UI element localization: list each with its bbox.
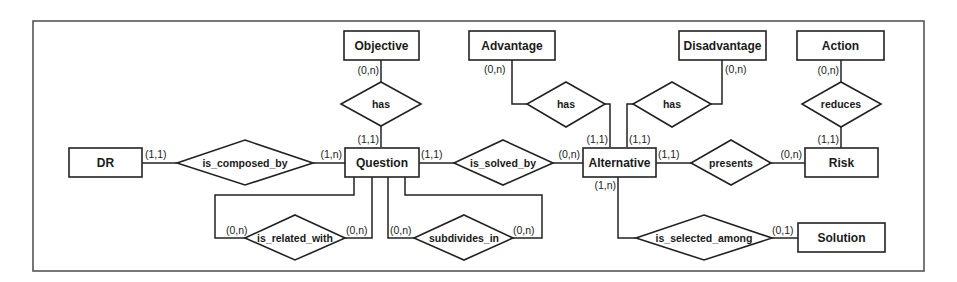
relationship-label: subdivides_in (429, 232, 499, 244)
entity-label: Advantage (481, 39, 543, 53)
cardinality-solution-selected: (0,1) (772, 224, 794, 236)
relationship-label: is_composed_by (202, 157, 287, 169)
cardinality-subdivides-left: (0,n) (390, 224, 412, 236)
entity-label: Action (822, 39, 859, 53)
entity-advantage: Advantage (469, 31, 555, 60)
cardinality-question-solved: (1,1) (421, 148, 443, 160)
relationship-reduces: reduces (802, 82, 881, 127)
entity-label: Disadvantage (683, 39, 761, 53)
cardinality-risk-action: (1,1) (817, 133, 839, 145)
relationship-objective-has: has (341, 82, 421, 126)
cardinality-alternative-disadvantage: (1,1) (629, 133, 651, 145)
entity-label: Objective (354, 39, 408, 53)
cardinality-question-dr: (1,n) (320, 148, 342, 160)
cardinality-alternative-selected: (1,n) (594, 179, 616, 191)
relationship-label: has (557, 98, 575, 110)
cardinality-dr: (1,1) (145, 148, 167, 160)
cardinality-risk-presents: (0,n) (780, 148, 802, 160)
entity-objective: Objective (344, 31, 419, 60)
entity-dr: DR (69, 148, 142, 177)
entity-label: Question (356, 156, 408, 170)
entity-label: DR (97, 156, 115, 170)
relationship-advantage-has: has (527, 82, 605, 127)
entity-label: Risk (829, 156, 855, 170)
relationship-presents: presents (691, 140, 771, 185)
relationship-label: has (663, 98, 681, 110)
relationship-label: reduces (821, 98, 861, 110)
er-diagram: Objective Advantage Disadvantage Action … (0, 0, 957, 282)
cardinality-disadvantage: (0,n) (725, 63, 747, 75)
cardinality-action: (0,n) (817, 64, 839, 76)
entity-risk: Risk (805, 148, 878, 177)
relationship-is-related-with: is_related_with (245, 215, 345, 260)
connector-disadvantage-has (711, 60, 722, 104)
connector-advantage-has (512, 60, 527, 104)
cardinality-objective: (0,n) (357, 64, 379, 76)
cardinality-advantage: (0,n) (484, 63, 506, 75)
entity-label: Solution (818, 231, 866, 245)
relationship-label: is_solved_by (470, 157, 536, 169)
relationship-label: is_selected_among (656, 232, 753, 244)
cardinality-alternative-solved: (0,n) (558, 148, 580, 160)
cardinality-subdivides-right: (0,n) (513, 224, 535, 236)
entity-alternative: Alternative (583, 148, 656, 177)
entity-action: Action (797, 31, 884, 60)
entity-label: Alternative (588, 156, 650, 170)
relationship-label: has (372, 98, 390, 110)
cardinality-alternative-presents: (1,1) (658, 148, 680, 160)
cardinality-related-right: (0,n) (346, 224, 368, 236)
relationship-label: is_related_with (257, 232, 333, 244)
entity-solution: Solution (798, 223, 885, 252)
cardinality-alternative-advantage: (1,1) (586, 133, 608, 145)
relationship-is-selected-among: is_selected_among (636, 215, 772, 260)
cardinality-question-objective: (1,1) (357, 133, 379, 145)
relationship-label: presents (709, 157, 753, 169)
entity-question: Question (345, 148, 419, 177)
relationship-subdivides-in: subdivides_in (414, 215, 513, 260)
relationship-is-solved-by: is_solved_by (454, 140, 553, 185)
entity-disadvantage: Disadvantage (679, 31, 766, 60)
relationship-disadvantage-has: has (633, 82, 711, 127)
connector-alternative-selected (618, 177, 636, 238)
relationship-is-composed-by: is_composed_by (177, 140, 313, 185)
cardinality-related-left: (0,n) (226, 224, 248, 236)
